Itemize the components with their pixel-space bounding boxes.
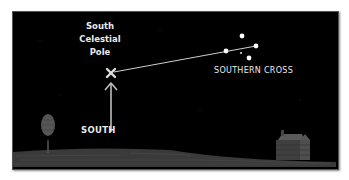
direction-label: SOUTH <box>81 125 116 135</box>
pole-label-line: Celestial <box>56 33 144 46</box>
star <box>247 56 252 61</box>
sky-illustration <box>0 0 349 180</box>
star <box>254 44 259 49</box>
pole-label: South Celestial Pole <box>56 20 144 59</box>
star <box>224 49 229 54</box>
cabin-icon <box>276 130 310 160</box>
constellation-label: SOUTHERN CROSS <box>214 66 293 75</box>
star <box>240 52 242 54</box>
pole-label-line: South <box>56 20 144 33</box>
tree-icon <box>41 114 55 153</box>
star <box>240 34 245 39</box>
pole-label-line: Pole <box>56 46 144 59</box>
pole-marker-icon <box>107 69 115 77</box>
